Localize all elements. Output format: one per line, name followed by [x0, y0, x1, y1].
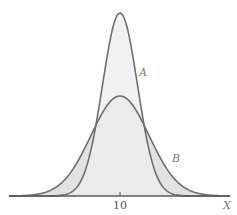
distribution-chart: 10 X A B: [0, 0, 237, 215]
x-axis-label: X: [222, 199, 232, 212]
x-tick-label: 10: [113, 199, 127, 212]
curve-b-label: B: [171, 152, 180, 165]
curve-a-fill: [9, 13, 230, 196]
plot-area: [9, 13, 230, 196]
curve-a-label: A: [138, 66, 147, 79]
